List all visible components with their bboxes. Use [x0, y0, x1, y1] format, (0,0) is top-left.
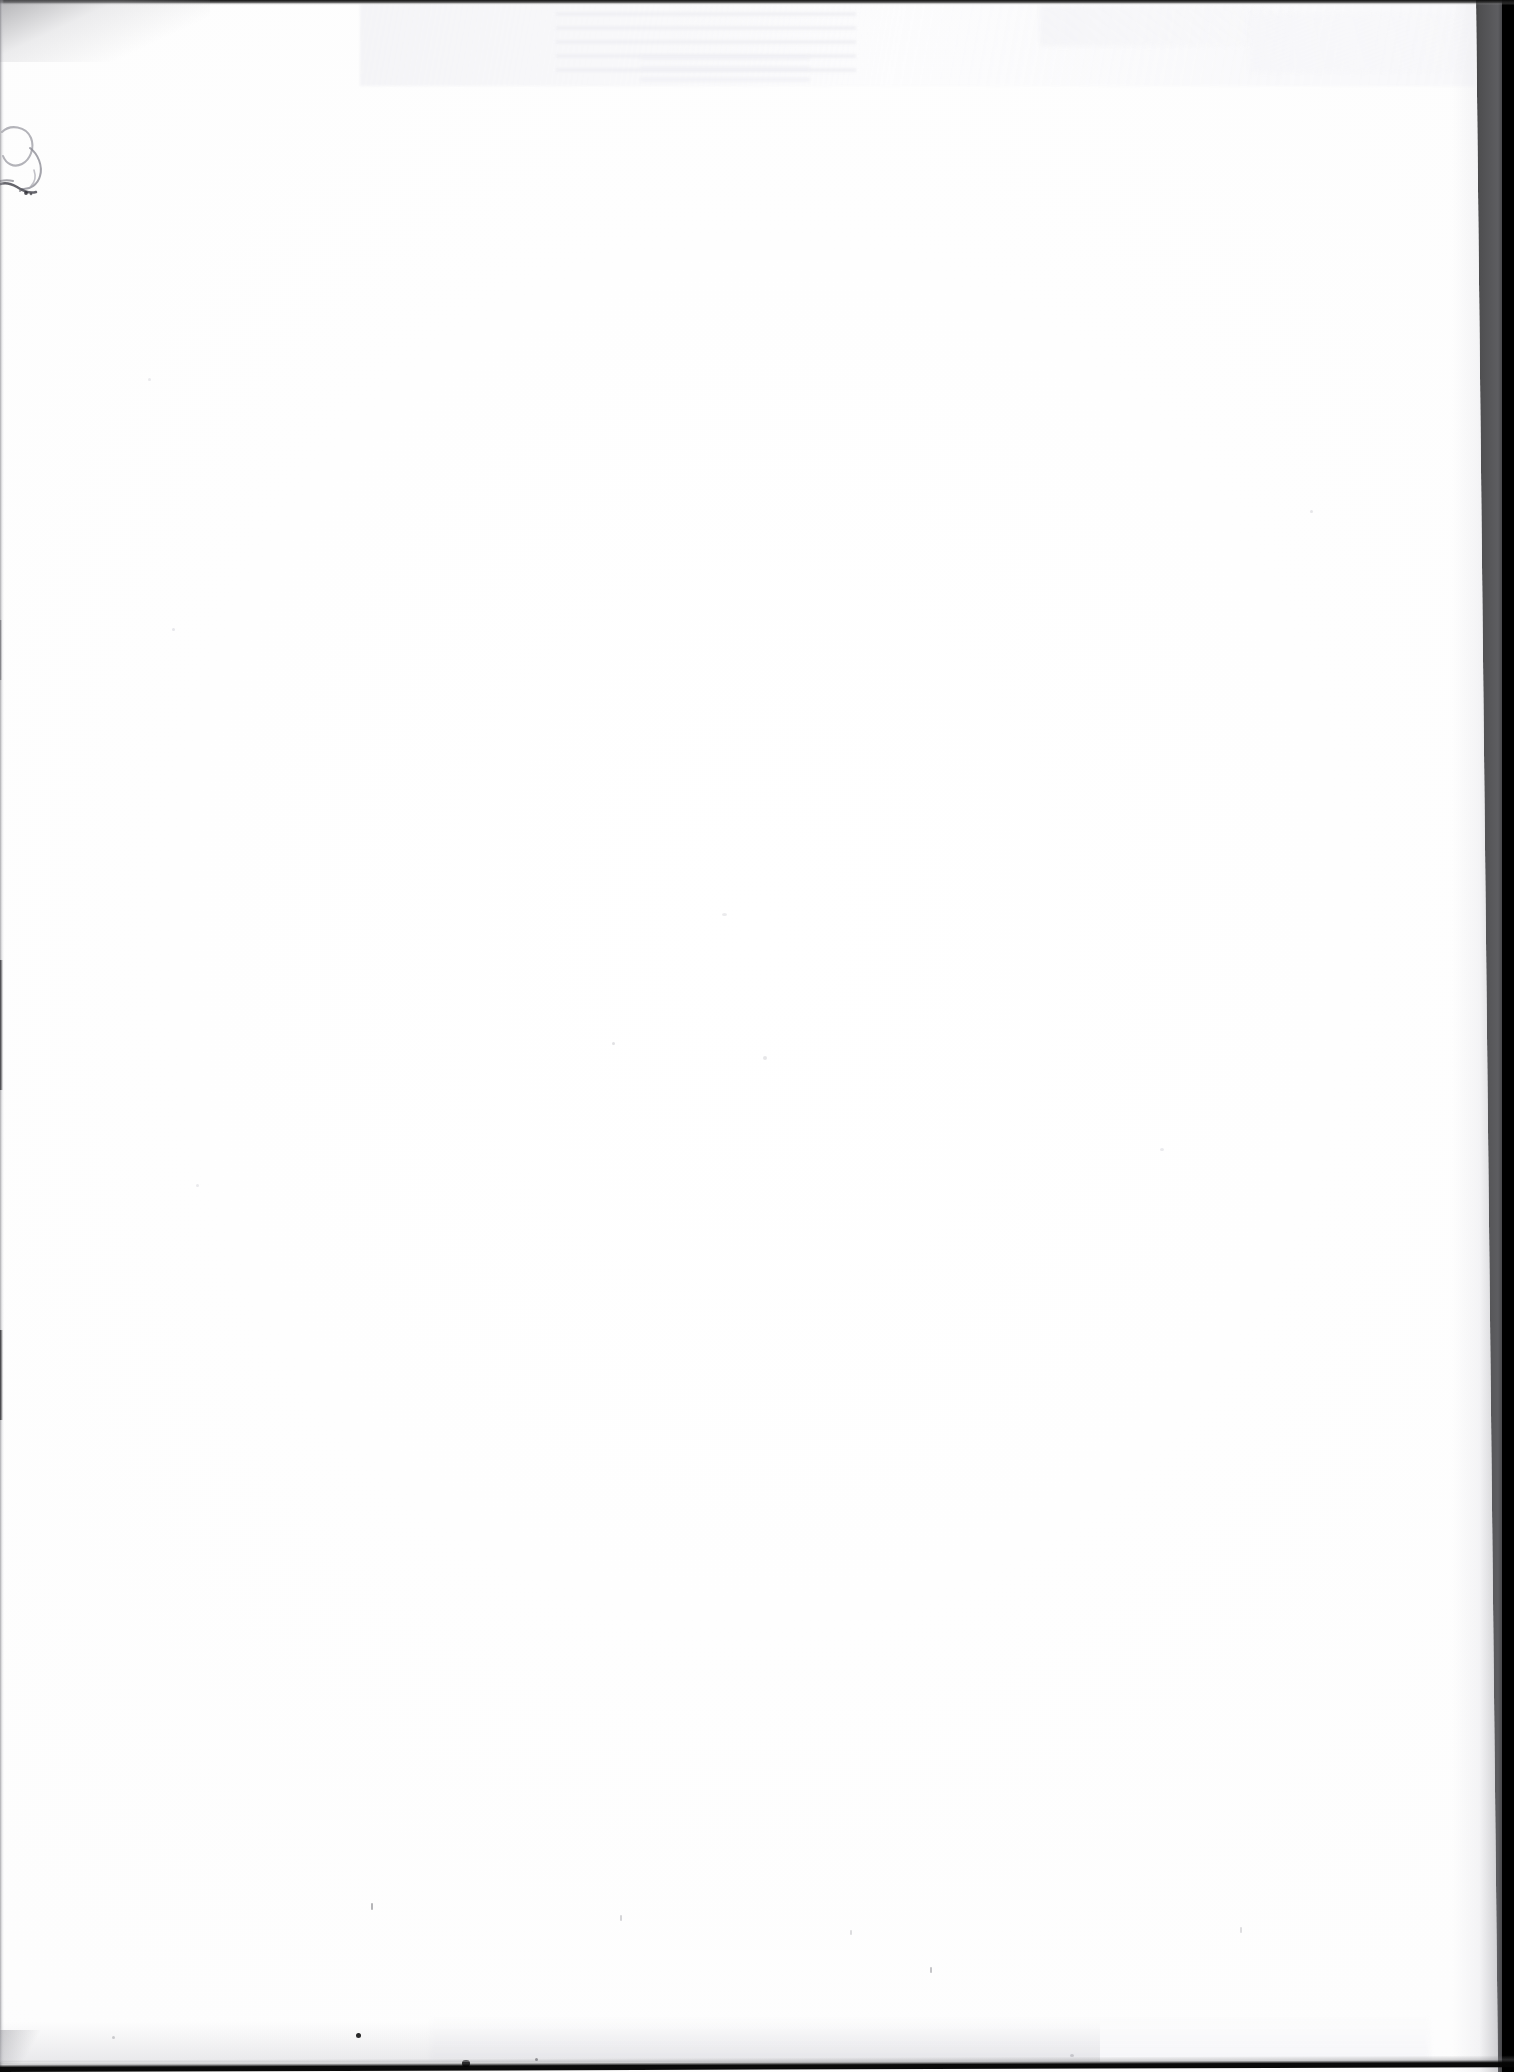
top-left-corner-shadow [0, 0, 210, 62]
bottom-edge-falloff [0, 2022, 1100, 2062]
top-edge-shadow [0, 0, 1514, 5]
page-text-area [0, 0, 1514, 2072]
left-edge-dark-segment [0, 960, 3, 1090]
right-edge-falloff [1452, 0, 1502, 2072]
paper-sheet [0, 0, 1514, 2072]
scanned-page-canvas: blank [0, 0, 1514, 2072]
left-edge-dark-segment [0, 620, 2, 680]
left-edge-dark-segment [0, 1330, 3, 1420]
